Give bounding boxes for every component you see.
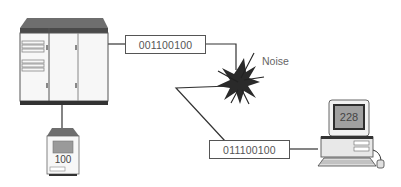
noise-to-received-line	[176, 86, 230, 141]
terminal-icon	[47, 128, 79, 176]
sent-bits-box: 001100100	[125, 35, 206, 54]
mainframe-icon	[20, 18, 108, 105]
noise-burst-icon	[217, 53, 264, 104]
received-bits-text: 011100100	[223, 144, 276, 156]
pc-display-value: 228	[335, 111, 363, 123]
terminal-display-value: 100	[50, 154, 76, 165]
sent-box-to-noise-line	[206, 44, 236, 70]
noise-label: Noise	[262, 55, 289, 67]
received-bits-box: 011100100	[209, 140, 290, 159]
sent-bits-text: 001100100	[139, 39, 193, 51]
